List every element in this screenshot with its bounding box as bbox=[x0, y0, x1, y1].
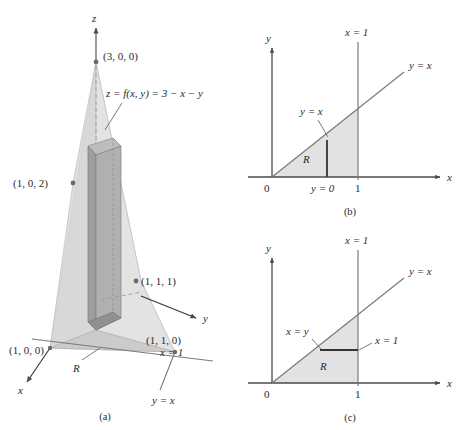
panel-a-point-label-1-1-1: (1, 1, 1) bbox=[141, 275, 176, 288]
panel-c-caption: (c) bbox=[344, 412, 356, 424]
panel-c-vertical-line-label: x = 1 bbox=[344, 234, 368, 246]
panel-b-x-axis-label: x bbox=[446, 171, 452, 183]
panel-a-column-front-face bbox=[96, 146, 121, 330]
figure-svg: z y bbox=[0, 0, 466, 430]
panel-c-tick-1-label: 1 bbox=[355, 388, 361, 400]
panel-a-point-label-1-0-2: (1, 0, 2) bbox=[13, 177, 48, 190]
panel-b: y x y = x x = 1 y = x y = 0 R 0 1 (b) bbox=[248, 26, 452, 218]
panel-a-label-x-equals-1: x = 1 bbox=[159, 346, 183, 358]
panel-b-tick-1-label: 1 bbox=[355, 182, 361, 194]
panel-a-point-label-1-0-0: (1, 0, 0) bbox=[9, 344, 44, 357]
panel-c: y x y = x x = 1 x = y x = 1 R 0 1 bbox=[248, 234, 452, 424]
panel-c-origin-label: 0 bbox=[264, 388, 270, 400]
panel-b-upper-limit-leader bbox=[318, 120, 328, 137]
panel-a-column-left-face bbox=[88, 146, 96, 330]
panel-b-origin-label: 0 bbox=[264, 182, 270, 194]
panel-a-marker-1-0-2 bbox=[71, 181, 76, 186]
figure-container: z y bbox=[0, 0, 466, 430]
panel-b-lower-limit-label: y = 0 bbox=[310, 182, 335, 194]
panel-b-y-axis-label: y bbox=[265, 32, 271, 44]
panel-a-marker-1-1-1 bbox=[134, 279, 139, 284]
panel-c-left-limit-label: x = y bbox=[285, 325, 309, 337]
panel-a-x-axis-label: x bbox=[17, 384, 23, 396]
panel-a-marker-3-0-0 bbox=[94, 60, 99, 65]
panel-a-caption: (a) bbox=[99, 411, 111, 423]
panel-b-diagonal-label: y = x bbox=[408, 59, 432, 71]
panel-a-region-leader bbox=[82, 348, 100, 360]
panel-b-upper-limit-label: y = x bbox=[299, 105, 323, 117]
panel-c-x-axis-label: x bbox=[446, 377, 452, 389]
panel-b-vertical-line-label: x = 1 bbox=[344, 26, 368, 38]
panel-a-region-label: R bbox=[72, 362, 80, 374]
panel-c-right-limit-label: x = 1 bbox=[374, 334, 398, 346]
panel-c-diagonal-label: y = x bbox=[408, 265, 432, 277]
panel-c-right-limit-leader bbox=[359, 343, 372, 350]
panel-a-marker-1-1-0 bbox=[173, 350, 177, 354]
panel-b-region-label: R bbox=[302, 153, 310, 165]
panel-b-caption: (b) bbox=[344, 206, 357, 218]
panel-a: z y bbox=[9, 12, 213, 423]
panel-a-y-axis-label: y bbox=[202, 312, 208, 324]
panel-a-label-y-equals-x: y = x bbox=[151, 394, 175, 406]
panel-c-region-label: R bbox=[319, 360, 327, 372]
panel-a-point-label-3-0-0: (3, 0, 0) bbox=[103, 50, 138, 63]
panel-a-z-axis-label: z bbox=[91, 12, 97, 24]
panel-a-surface-equation: z = f(x, y) = 3 − x − y bbox=[105, 87, 203, 100]
panel-c-y-axis-label: y bbox=[265, 242, 271, 254]
panel-a-point-label-1-1-0: (1, 1, 0) bbox=[146, 334, 181, 347]
panel-a-marker-1-0-0 bbox=[48, 346, 52, 350]
